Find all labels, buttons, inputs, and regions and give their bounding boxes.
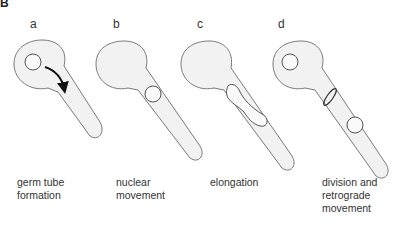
nucleus — [145, 86, 161, 102]
cell-a — [14, 40, 102, 138]
caption-a: germ tube formation — [17, 176, 64, 202]
nucleus — [347, 117, 363, 133]
caption-b: nuclear movement — [116, 176, 165, 202]
caption-d: division and retrograde movement — [322, 176, 377, 212]
caption-line: division and — [322, 176, 377, 189]
caption-line: formation — [17, 189, 64, 202]
caption-line: movement — [322, 202, 377, 212]
caption-line: nuclear — [116, 176, 165, 189]
caption-line: retrograde — [322, 189, 377, 202]
caption-line: germ tube — [17, 176, 64, 189]
nucleus — [282, 54, 298, 70]
caption-line: elongation — [210, 176, 258, 189]
nucleus — [25, 54, 41, 70]
caption-line: movement — [116, 189, 165, 202]
caption-c: elongation — [210, 176, 258, 189]
